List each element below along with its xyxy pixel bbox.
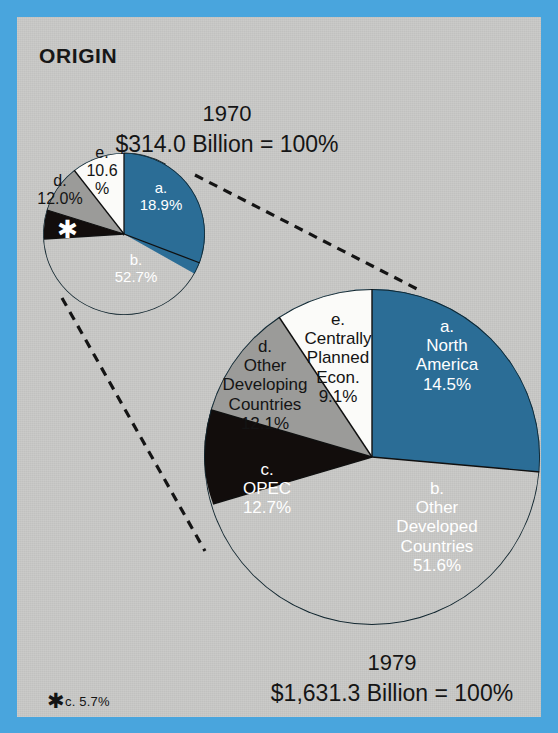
page-title: ORIGIN [39, 44, 117, 68]
caption-1979-amount: $1,631.3 Billion = 100% [202, 679, 541, 708]
connector-line-lower [62, 298, 205, 551]
footnote-text: c. 5.7% [65, 694, 110, 709]
caption-1970: 1970 $314.0 Billion = 100% [17, 100, 437, 158]
footnote: ✱c. 5.7% [47, 689, 110, 713]
pie-1979-slices [203, 273, 541, 625]
pie-1970-label-c-asterisk: ✱ [57, 217, 78, 242]
caption-1979-year: 1979 [202, 649, 541, 677]
connector-line-upper [195, 175, 421, 291]
caption-1970-amount: $314.0 Billion = 100% [17, 130, 437, 159]
caption-1979: 1979 $1,631.3 Billion = 100% [202, 649, 541, 707]
caption-1970-year: 1970 [17, 100, 437, 128]
origin-chart-figure: ORIGIN 1970 $314.0 Billion = 100% 1979 $… [0, 0, 558, 733]
footnote-asterisk-icon: ✱ [47, 689, 65, 712]
chart-panel: ORIGIN 1970 $314.0 Billion = 100% 1979 $… [17, 17, 541, 717]
